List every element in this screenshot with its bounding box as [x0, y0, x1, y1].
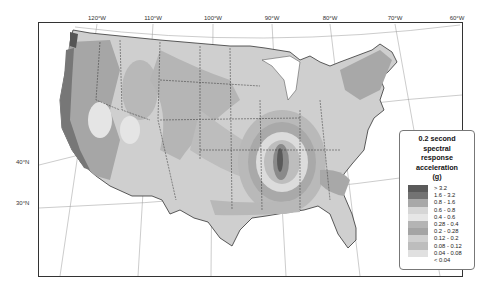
legend-swatch [408, 214, 428, 221]
legend-item: 0.2 - 0.28 [404, 228, 470, 235]
legend-label: 1.6 - 3.2 [434, 192, 455, 199]
legend: 0.2 second spectral response acceleratio… [399, 130, 475, 270]
legend-label: 0.04 - 0.08 [434, 250, 462, 257]
intermountain-zone [122, 60, 158, 120]
legend-swatch [408, 242, 428, 249]
legend-item: < 0.04 [404, 257, 470, 264]
legend-item: 0.04 - 0.08 [404, 250, 470, 257]
new-madrid-zone [238, 110, 326, 214]
utah-low [120, 116, 140, 144]
legend-label: 0.4 - 0.6 [434, 214, 455, 221]
legend-label: 0.2 - 0.28 [434, 228, 459, 235]
legend-swatch [408, 192, 428, 199]
legend-label: 0.8 - 1.6 [434, 199, 455, 206]
legend-swatch [408, 207, 428, 214]
legend-item: 0.4 - 0.6 [404, 214, 470, 221]
legend-swatch [408, 235, 428, 242]
legend-item: > 3.2 [404, 185, 470, 192]
legend-title: 0.2 second spectral response acceleratio… [404, 134, 470, 182]
legend-label: 0.28 - 0.4 [434, 221, 459, 228]
legend-label: < 0.04 [434, 257, 450, 264]
legend-title-line: response [404, 153, 470, 163]
legend-label: 0.6 - 0.8 [434, 207, 455, 214]
legend-item: 1.6 - 3.2 [404, 192, 470, 199]
legend-item: 0.8 - 1.6 [404, 199, 470, 206]
legend-swatch [408, 257, 428, 264]
legend-item: 0.6 - 0.8 [404, 207, 470, 214]
legend-title-line: 0.2 second [404, 134, 470, 144]
legend-swatch [408, 199, 428, 206]
legend-item: 0.12 - 0.2 [404, 235, 470, 242]
legend-label: 0.08 - 0.12 [434, 243, 462, 250]
legend-label: 0.12 - 0.2 [434, 235, 459, 242]
legend-item: 0.08 - 0.12 [404, 242, 470, 249]
legend-items: > 3.21.6 - 3.20.8 - 1.60.6 - 0.80.4 - 0.… [404, 185, 470, 264]
legend-title-line: (g) [404, 172, 470, 182]
legend-swatch [408, 250, 428, 257]
legend-title-line: acceleration [404, 163, 470, 173]
legend-item: 0.28 - 0.4 [404, 221, 470, 228]
legend-label: > 3.2 [434, 185, 447, 192]
legend-swatch [408, 185, 428, 192]
nevada-low [88, 102, 112, 138]
legend-swatch [408, 221, 428, 228]
legend-title-line: spectral [404, 144, 470, 154]
legend-swatch [408, 228, 428, 235]
